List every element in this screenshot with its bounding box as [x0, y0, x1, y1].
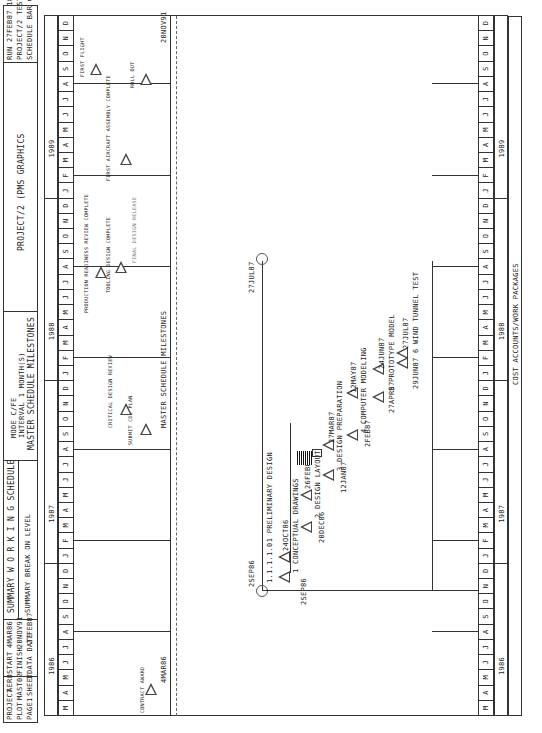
month-cell: A — [478, 259, 494, 275]
milestone-triangle-icon[interactable] — [90, 63, 102, 75]
month-cell: O — [58, 593, 74, 609]
quarter-gridline — [432, 175, 478, 176]
month-cell: F — [478, 167, 494, 183]
month-cell: O — [58, 411, 74, 427]
task6-finish: 27JUL87 — [402, 317, 410, 349]
month-cell: N — [58, 30, 74, 46]
month-cell: A — [478, 685, 494, 701]
month-cell: A — [478, 441, 494, 457]
finish-circle-icon — [256, 253, 268, 265]
finish-value: 20NOV91 — [16, 616, 24, 648]
month-cell: A — [478, 624, 494, 640]
quarter-gridline — [74, 540, 170, 541]
month-cell: A — [58, 441, 74, 457]
month-cell: F — [58, 350, 74, 366]
page-label: PAGE — [26, 702, 34, 720]
year-cell: 1987 — [494, 380, 508, 564]
milestone-triangle-icon[interactable] — [145, 683, 157, 695]
milestone-triangle-icon[interactable] — [115, 261, 127, 273]
month-cell: J — [58, 274, 74, 290]
month-cell: D — [478, 380, 494, 396]
chart-type: SCHEDULE BAR CHART — [26, 0, 34, 60]
contract-award-date: 4MAR86 — [160, 656, 168, 683]
month-cell: J — [478, 289, 494, 305]
month-cell: M — [58, 669, 74, 685]
task3-finish: 27MAR87 — [328, 411, 336, 443]
month-cell: M — [58, 517, 74, 533]
month-cell: M — [478, 304, 494, 320]
task-start-triangle-icon — [278, 571, 290, 583]
schedule-sheet: PROJECT AERO PLOT MAST02 PAGE 1 SHEET 1 … — [0, 0, 542, 733]
task-start-triangle-icon — [346, 429, 358, 441]
plot-label: PLOT — [16, 702, 24, 720]
month-cell: A — [58, 502, 74, 518]
month-cell: D — [58, 563, 74, 579]
milestone-triangle-icon[interactable] — [140, 423, 152, 435]
month-cell: A — [478, 319, 494, 335]
year-cell: 1989 — [44, 15, 58, 199]
section-title: MASTER SCHEDULE MILESTONES — [28, 317, 36, 450]
roll-out-date: 20NOV91 — [160, 11, 168, 43]
year-label: 1989 — [498, 140, 506, 158]
prelim-design-bar[interactable] — [262, 261, 263, 591]
year-label: 1989 — [48, 140, 56, 158]
run-project: PROJECT/2 TEST — [16, 0, 24, 60]
year-label: 1987 — [498, 505, 506, 523]
month-cell: M — [58, 152, 74, 168]
milestone-triangle-icon[interactable] — [120, 153, 132, 165]
mode-text: MODE C/FE — [10, 397, 18, 438]
milestone-triangle-icon[interactable] — [120, 403, 132, 415]
quarter-gridline — [74, 631, 170, 632]
task1-start: 2SEP86 — [300, 578, 308, 605]
month-header-top: MAMJJASONDJFMAMJJASONDJFMAMJJASONDJFMAMJ… — [58, 16, 74, 716]
year-label: 1988 — [498, 322, 506, 340]
month-cell: J — [478, 365, 494, 381]
month-cell: A — [478, 502, 494, 518]
month-cell: S — [478, 609, 494, 625]
data-date-arrow-icon — [312, 449, 322, 457]
quarter-gridline — [74, 357, 170, 358]
month-cell: M — [478, 122, 494, 138]
cost-accounts-title: COST ACCOUNTS/WORK PACKAGES — [512, 263, 520, 385]
month-cell: J — [58, 548, 74, 564]
month-cell: J — [58, 654, 74, 670]
year-label: 1987 — [48, 505, 56, 523]
month-cell: A — [58, 685, 74, 701]
month-cell: J — [478, 472, 494, 488]
month-cell: M — [58, 304, 74, 320]
critical-review-label: CRITICAL DESIGN REVIEW — [108, 355, 113, 428]
month-cell: F — [58, 167, 74, 183]
task-finish-triangle-icon — [278, 551, 290, 563]
project-label: PROJECT — [6, 688, 14, 720]
month-cell: J — [478, 274, 494, 290]
month-cell: J — [478, 106, 494, 122]
month-cell: A — [58, 624, 74, 640]
quarter-gridline — [74, 449, 170, 450]
master-milestones-label: MASTER SCHEDULE MILESTONES — [160, 311, 168, 428]
month-cell: S — [478, 61, 494, 77]
month-cell: M — [478, 152, 494, 168]
wbs-bottom-line — [432, 261, 433, 591]
task-start-triangle-icon — [300, 521, 312, 533]
month-cell: J — [58, 182, 74, 198]
month-cell: A — [58, 76, 74, 92]
milestone-triangle-icon[interactable] — [140, 73, 152, 85]
task1-bar[interactable] — [290, 423, 291, 573]
first-assembly-label: FIRST AIRCRAFT ASSEMBLY COMPLETE — [106, 75, 111, 181]
month-header-bottom: MAMJJASONDJFMAMJJASONDJFMAMJJASONDJFMAMJ… — [478, 16, 494, 716]
month-cell: A — [58, 259, 74, 275]
roll-out-label: ROLL OUT — [130, 62, 135, 88]
month-cell: A — [478, 137, 494, 153]
quarter-gridline — [74, 175, 170, 176]
month-cell: J — [478, 639, 494, 655]
month-cell: J — [58, 365, 74, 381]
month-cell: M — [478, 669, 494, 685]
year-header-bottom: 1986198719881989 — [494, 16, 508, 716]
month-cell: S — [478, 426, 494, 442]
prelim-design-label: 1.1.1.1.01 PRELIMINARY DESIGN — [266, 452, 274, 583]
page-value: 1 — [26, 697, 34, 702]
month-cell: N — [58, 395, 74, 411]
month-cell: M — [58, 487, 74, 503]
schedule-title: SUMMARY W O R K I N G SCHEDULE — [8, 460, 16, 614]
month-cell: A — [58, 137, 74, 153]
